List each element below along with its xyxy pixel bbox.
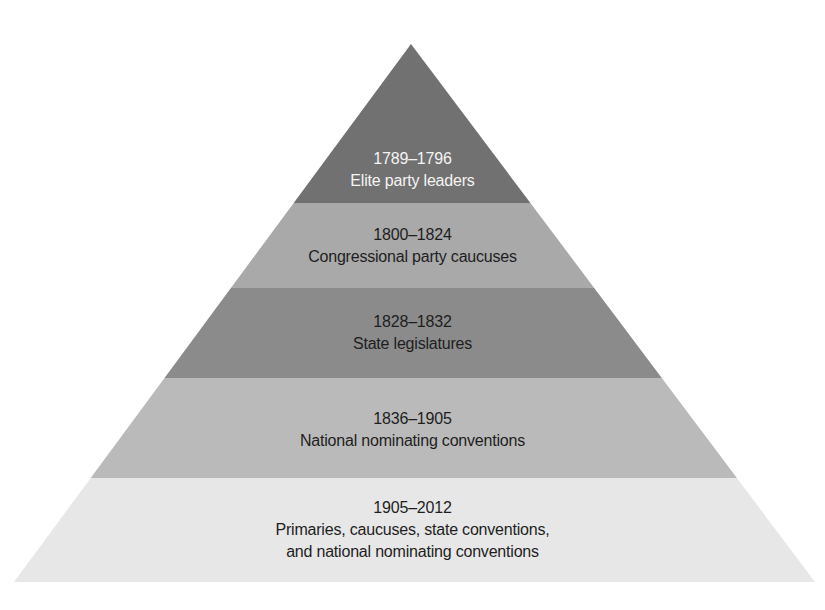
tier-2-description: Congressional party caucuses — [0, 246, 825, 268]
tier-5-description-line-2: and national nominating conventions — [0, 541, 825, 563]
tier-3-label: 1828–1832 State legislatures — [0, 311, 825, 355]
tier-1-description: Elite party leaders — [0, 170, 825, 192]
tier-4-description: National nominating conventions — [0, 430, 825, 452]
tier-3-years: 1828–1832 — [0, 311, 825, 333]
tier-5-label: 1905–2012 Primaries, caucuses, state con… — [0, 497, 825, 563]
tier-1-years: 1789–1796 — [0, 148, 825, 170]
tier-2-years: 1800–1824 — [0, 224, 825, 246]
tier-3-description: State legislatures — [0, 333, 825, 355]
tier-5-years: 1905–2012 — [0, 497, 825, 519]
tier-5-description-line-1: Primaries, caucuses, state conventions, — [0, 519, 825, 541]
tier-1-label: 1789–1796 Elite party leaders — [0, 148, 825, 192]
tier-4-years: 1836–1905 — [0, 408, 825, 430]
tier-4-label: 1836–1905 National nominating convention… — [0, 408, 825, 452]
tier-2-label: 1800–1824 Congressional party caucuses — [0, 224, 825, 268]
